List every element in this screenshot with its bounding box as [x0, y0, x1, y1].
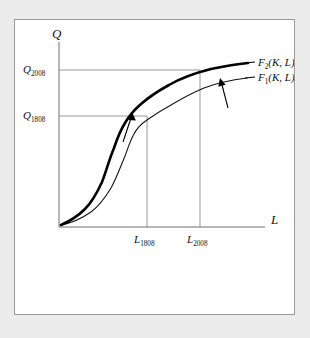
curve-f2: [61, 63, 248, 225]
leader-line-f1: [245, 77, 255, 78]
x-tick-label-l1808: L1808: [133, 233, 155, 248]
figure-panel: Q L Q2008 Q1808 L1808 L2008 F2(K, L) F1(…: [14, 19, 295, 315]
y-tick-label-q1808: Q1808: [23, 109, 46, 124]
f1-args: (K, L): [268, 71, 294, 84]
x-axis-label: L: [270, 212, 278, 227]
y-tick-label-q2008: Q2008: [23, 63, 46, 78]
figure-root: Q L Q2008 Q1808 L1808 L2008 F2(K, L) F1(…: [0, 0, 310, 338]
curve-label-f1: F1(K, L): [257, 71, 294, 86]
l1808-sub: 1808: [140, 240, 155, 248]
f2-args: (K, L): [268, 56, 294, 69]
l1808-base: L: [133, 233, 140, 245]
q2008-sub: 2008: [31, 70, 46, 78]
q1808-sub: 1808: [31, 116, 46, 124]
x-tick-label-l2008: L2008: [186, 233, 208, 248]
production-function-chart: Q L Q2008 Q1808 L1808 L2008 F2(K, L) F1(…: [15, 20, 294, 314]
curve-label-f2: F2(K, L): [257, 56, 294, 71]
l2008-base: L: [186, 233, 193, 245]
q1808-base: Q: [23, 109, 31, 121]
y-axis-label: Q: [52, 26, 62, 41]
q2008-base: Q: [23, 63, 31, 75]
l2008-sub: 2008: [193, 240, 208, 248]
